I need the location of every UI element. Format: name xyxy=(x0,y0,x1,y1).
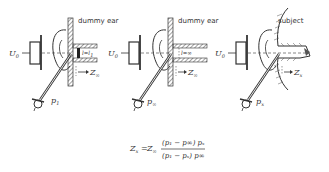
sound-source-icon xyxy=(30,35,41,70)
panel-title: subject xyxy=(278,17,304,25)
impedance-label: Z∞ xyxy=(187,68,198,78)
formula-denominator: (p₁ − pₓ) p∞ xyxy=(162,152,205,160)
impedance-label: Z∞ xyxy=(89,68,100,78)
panel-dummy-ear-l1: U0 l=l1 p1 Z∞ dummy ear xyxy=(9,17,118,111)
ear-icon xyxy=(53,30,70,70)
ear-icon xyxy=(153,30,170,70)
impedance-formula: Zx = Z∞ (p₁ − p∞) pₓ (p₁ − pₓ) p∞ xyxy=(129,139,205,160)
sound-source-icon xyxy=(129,35,140,70)
pressure-label: p∞ xyxy=(147,97,156,107)
formula-numerator: (p₁ − p∞) pₓ xyxy=(162,139,205,147)
baffle-wall xyxy=(68,18,73,86)
panel-subject: U0 subject px Zx xyxy=(215,8,310,111)
microphone-icon xyxy=(132,99,144,111)
tube-length-label: l=∞ xyxy=(181,50,192,56)
formula-coefficient: Z∞ xyxy=(146,144,157,154)
pressure-label: px xyxy=(256,97,264,107)
source-label: U0 xyxy=(108,49,119,59)
sound-source-icon xyxy=(236,35,247,70)
formula-lhs: Zx xyxy=(129,144,139,154)
microphone-icon xyxy=(32,99,44,111)
panel-title: dummy ear xyxy=(178,17,218,25)
source-label: U0 xyxy=(9,49,20,59)
diagram-canvas: U0 l=l1 p1 Z∞ dummy ear xyxy=(0,0,329,172)
panel-dummy-ear-infinite: U0 l=∞ p∞ Z∞ dummy ear xyxy=(108,17,218,111)
pressure-label: p1 xyxy=(51,96,59,106)
tube-termination xyxy=(77,48,80,58)
panel-title: dummy ear xyxy=(78,17,118,25)
impedance-label: Zx xyxy=(293,68,303,78)
microphone-icon xyxy=(240,99,252,111)
baffle-wall xyxy=(168,18,173,86)
source-label: U0 xyxy=(215,49,226,59)
tube-length-label: l=l1 xyxy=(82,50,93,58)
